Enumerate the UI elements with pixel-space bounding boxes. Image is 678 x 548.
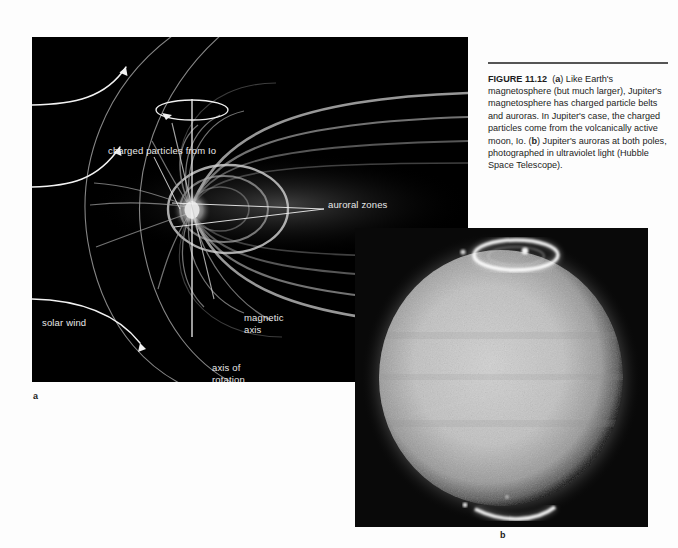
label-auroral-zones: auroral zones xyxy=(328,199,388,211)
label-axis-of-rotation-line1: axis of xyxy=(212,362,241,373)
jupiter-uv-photo-panel xyxy=(355,228,648,527)
label-solar-wind: solar wind xyxy=(42,317,86,329)
figure-caption-text: FIGURE 11.12 (a) Like Earth's magnetosph… xyxy=(488,73,668,172)
label-magnetic-axis-line1: magnetic xyxy=(244,312,284,323)
figure-container: charged particles from Io auroral zones … xyxy=(0,0,678,548)
label-magnetic-axis: magnetic axis xyxy=(244,312,284,336)
panel-letter-b: b xyxy=(500,530,506,540)
caption-rule xyxy=(488,62,668,64)
label-magnetic-axis-line2: axis xyxy=(244,324,262,335)
figure-number: FIGURE 11.12 xyxy=(488,74,547,84)
panel-letter-a: a xyxy=(33,391,38,401)
label-axis-of-rotation-line2: rotation xyxy=(212,374,245,382)
label-charged-particles-from-io: charged particles from Io xyxy=(108,145,216,157)
label-axis-of-rotation: axis of rotation xyxy=(212,362,245,382)
figure-caption-block: FIGURE 11.12 (a) Like Earth's magnetosph… xyxy=(488,62,668,172)
jupiter-uv-image xyxy=(355,228,648,527)
